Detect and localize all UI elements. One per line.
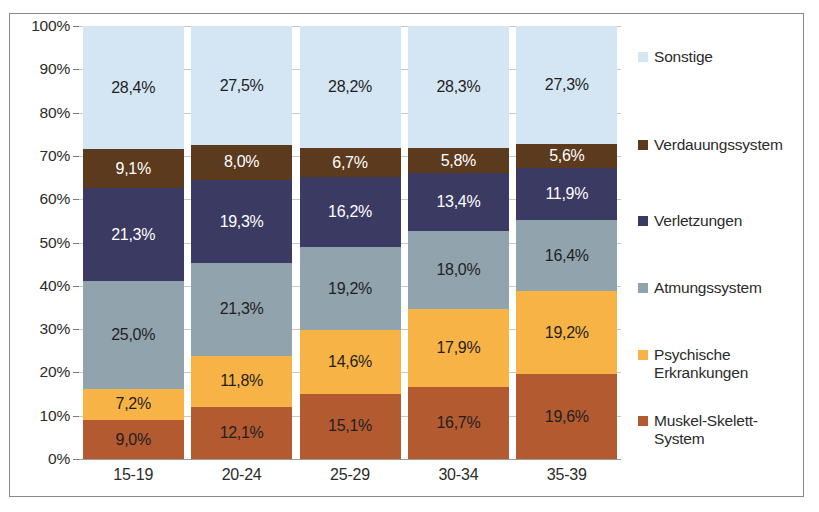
chart-legend: SonstigeVerdauungssystemVerletzungenAtmu…	[638, 26, 798, 459]
bar-segment-value-label: 6,7%	[332, 155, 367, 171]
bar-segment[interactable]: 7,2%	[83, 389, 184, 420]
bar-column[interactable]: 16,7%17,9%18,0%13,4%5,8%28,3%	[408, 26, 509, 459]
bar-segment-value-label: 5,8%	[441, 153, 476, 169]
x-axis-tick-label: 30-34	[438, 466, 478, 484]
bar-segment-value-label: 15,1%	[328, 418, 372, 434]
bar-segment-value-label: 16,7%	[436, 415, 480, 431]
y-axis-tick-label: 40%	[40, 277, 70, 295]
bar-segment[interactable]: 9,1%	[83, 149, 184, 188]
plot-area: 0%10%20%30%40%50%60%70%80%90%100% 9,0%7,…	[79, 26, 621, 459]
y-axis-line	[72, 26, 73, 459]
bar-column[interactable]: 12,1%11,8%21,3%19,3%8,0%27,5%	[191, 26, 292, 459]
bar-segment-value-label: 28,2%	[328, 79, 372, 95]
legend-color-swatch	[638, 216, 648, 226]
bar-segment[interactable]: 19,3%	[191, 180, 292, 264]
bar-segment[interactable]: 19,2%	[516, 291, 617, 374]
bar-segment[interactable]: 21,3%	[191, 263, 292, 355]
bar-segment-value-label: 12,1%	[220, 425, 264, 441]
bar-segment[interactable]: 5,8%	[408, 148, 509, 173]
bar-segment-value-label: 16,2%	[328, 204, 372, 220]
bar-segment-value-label: 5,6%	[549, 148, 584, 164]
y-axis-tick-label: 100%	[31, 17, 70, 35]
legend-item[interactable]: Atmungssystem	[638, 279, 762, 297]
bar-segment[interactable]: 11,9%	[516, 168, 617, 220]
bar-segment-value-label: 19,2%	[545, 325, 589, 341]
legend-item-label: Sonstige	[654, 48, 713, 66]
y-axis-tick-label: 90%	[40, 60, 70, 78]
legend-item[interactable]: Verletzungen	[638, 212, 742, 230]
bar-segment[interactable]: 28,3%	[408, 26, 509, 149]
legend-item-label: Verdauungssystem	[654, 136, 783, 154]
x-axis-tick-label: 35-39	[547, 466, 587, 484]
bar-segment[interactable]: 21,3%	[83, 188, 184, 280]
y-axis-tick-label: 0%	[48, 450, 70, 468]
bar-segment-value-label: 18,0%	[436, 262, 480, 278]
legend-item-label: Atmungssystem	[654, 279, 762, 297]
x-axis-tick-label: 15-19	[113, 466, 153, 484]
bar-segment-value-label: 21,3%	[111, 227, 155, 243]
bar-segment-value-label: 28,4%	[111, 80, 155, 96]
chart-figure: 0%10%20%30%40%50%60%70%80%90%100% 9,0%7,…	[9, 13, 804, 497]
bar-segment-value-label: 19,6%	[545, 409, 589, 425]
bar-segment[interactable]: 13,4%	[408, 173, 509, 231]
bar-segment[interactable]: 27,3%	[516, 26, 617, 144]
legend-color-swatch	[638, 416, 648, 426]
bar-segment[interactable]: 5,6%	[516, 144, 617, 168]
legend-item[interactable]: Sonstige	[638, 48, 713, 66]
bar-segment[interactable]: 11,8%	[191, 356, 292, 407]
bar-segment[interactable]: 15,1%	[300, 394, 401, 459]
bar-segment-value-label: 21,3%	[220, 301, 264, 317]
bar-segment-value-label: 13,4%	[436, 194, 480, 210]
y-axis-tick-label: 10%	[40, 407, 70, 425]
bar-column[interactable]: 19,6%19,2%16,4%11,9%5,6%27,3%	[516, 26, 617, 459]
bar-segment[interactable]: 25,0%	[83, 281, 184, 389]
bar-segment[interactable]: 14,6%	[300, 330, 401, 393]
bar-segment[interactable]: 19,6%	[516, 374, 617, 459]
bar-segment[interactable]: 18,0%	[408, 231, 509, 309]
bar-segment[interactable]: 16,2%	[300, 177, 401, 247]
bar-segment[interactable]: 8,0%	[191, 145, 292, 180]
bar-column[interactable]: 15,1%14,6%19,2%16,2%6,7%28,2%	[300, 26, 401, 459]
bar-segment[interactable]: 16,7%	[408, 387, 509, 459]
bar-segment-value-label: 28,3%	[436, 79, 480, 95]
bar-segment-value-label: 14,6%	[328, 354, 372, 370]
bar-segment-value-label: 16,4%	[545, 248, 589, 264]
legend-item[interactable]: Muskel-Skelett- System	[638, 412, 758, 448]
y-axis-tick-label: 50%	[40, 234, 70, 252]
legend-item-label: Muskel-Skelett- System	[654, 412, 758, 448]
bar-segment[interactable]: 28,2%	[300, 26, 401, 148]
y-axis-tick-label: 80%	[40, 104, 70, 122]
bar-segment-value-label: 19,3%	[220, 214, 264, 230]
bar-segment-value-label: 11,8%	[220, 373, 263, 389]
y-axis-tick-label: 20%	[40, 363, 70, 381]
bar-segment[interactable]: 28,4%	[83, 26, 184, 149]
legend-color-swatch	[638, 140, 648, 150]
bar-segment-value-label: 11,9%	[545, 186, 588, 202]
bar-segment[interactable]: 19,2%	[300, 247, 401, 330]
x-axis-tick-labels: 15-1920-2425-2930-3435-39	[79, 466, 621, 494]
legend-item-label: Verletzungen	[654, 212, 742, 230]
bar-segment-value-label: 9,0%	[116, 432, 151, 448]
bar-column[interactable]: 9,0%7,2%25,0%21,3%9,1%28,4%	[83, 26, 184, 459]
bar-segment-value-label: 27,3%	[545, 77, 589, 93]
legend-item[interactable]: Psychische Erkrankungen	[638, 346, 748, 382]
bar-segment-value-label: 9,1%	[116, 161, 151, 177]
bar-segment[interactable]: 17,9%	[408, 309, 509, 387]
y-axis-tick-label: 60%	[40, 190, 70, 208]
gridline	[79, 459, 621, 460]
bar-segment-value-label: 19,2%	[328, 281, 372, 297]
bars-layer: 9,0%7,2%25,0%21,3%9,1%28,4%12,1%11,8%21,…	[79, 26, 621, 459]
bar-segment[interactable]: 27,5%	[191, 26, 292, 145]
x-axis-tick-label: 20-24	[222, 466, 262, 484]
bar-segment-value-label: 8,0%	[224, 154, 259, 170]
bar-segment[interactable]: 16,4%	[516, 220, 617, 291]
y-axis-tick-label: 70%	[40, 147, 70, 165]
bar-segment[interactable]: 12,1%	[191, 407, 292, 459]
legend-item[interactable]: Verdauungssystem	[638, 136, 783, 154]
bar-segment[interactable]: 6,7%	[300, 148, 401, 177]
legend-item-label: Psychische Erkrankungen	[654, 346, 748, 382]
y-axis-tick-label: 30%	[40, 320, 70, 338]
legend-color-swatch	[638, 283, 648, 293]
bar-segment[interactable]: 9,0%	[83, 420, 184, 459]
bar-segment-value-label: 17,9%	[436, 340, 480, 356]
